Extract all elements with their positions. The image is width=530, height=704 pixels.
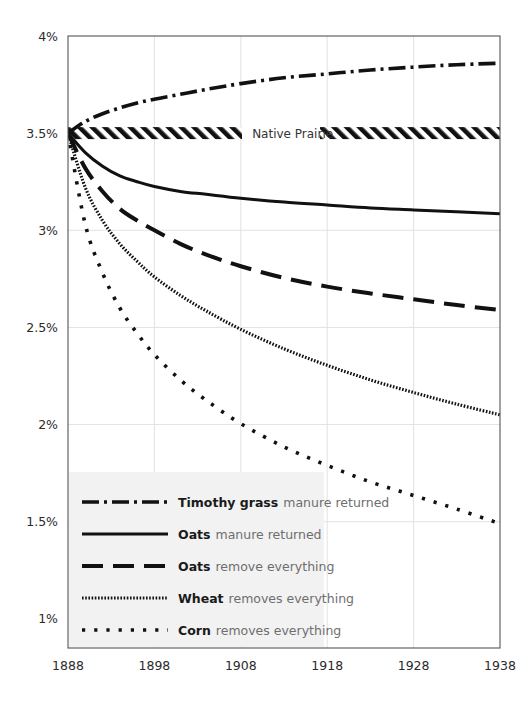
x-tick-label: 1888 — [52, 658, 84, 673]
legend-item-3[interactable]: Wheatremoves everything — [178, 591, 354, 606]
x-tick-label: 1898 — [138, 658, 170, 673]
y-tick-label: 2.5% — [26, 320, 58, 335]
y-tick-label: 2% — [38, 417, 58, 432]
y-tick-label: 1.5% — [26, 514, 58, 529]
legend-item-name: Oats — [178, 559, 210, 574]
x-axis-tick-labels: 188818981908191819281938 — [52, 658, 516, 673]
soil-nitrogen-line-chart: Timothy grassmanure returnedOatsmanure r… — [0, 0, 530, 704]
native-prairie-label: Native Prairie — [252, 127, 333, 141]
series-line-oats-remove-everything — [68, 133, 500, 310]
y-tick-label: 3.5% — [26, 126, 58, 141]
y-tick-label: 3% — [38, 223, 58, 238]
x-tick-label: 1928 — [398, 658, 430, 673]
x-tick-label: 1918 — [311, 658, 343, 673]
y-tick-label: 1% — [38, 611, 58, 626]
legend-item-descriptor: removes everything — [216, 623, 341, 638]
legend-item-descriptor: removes everything — [229, 591, 354, 606]
y-tick-label: 4% — [38, 29, 58, 44]
legend-item-name: Corn — [178, 623, 211, 638]
series-line-wheat-removes-everything — [68, 133, 500, 415]
legend-item-4[interactable]: Cornremoves everything — [178, 623, 341, 638]
legend-item-descriptor: manure returned — [283, 495, 389, 510]
legend-item-0[interactable]: Timothy grassmanure returned — [178, 495, 389, 510]
legend-item-descriptor: manure returned — [215, 527, 321, 542]
x-tick-label: 1938 — [484, 658, 516, 673]
y-axis-tick-labels: 4%3.5%3%2.5%2%1.5%1% — [26, 29, 58, 627]
series-line-oats-manure-returned — [68, 133, 500, 214]
legend-item-name: Timothy grass — [178, 495, 278, 510]
chart-container: Timothy grassmanure returnedOatsmanure r… — [0, 0, 530, 704]
legend-item-name: Wheat — [178, 591, 224, 606]
series-line-timothy-grass-manure-returned — [68, 63, 500, 133]
chart-annotations: Native Prairie — [252, 127, 333, 141]
x-tick-label: 1908 — [225, 658, 257, 673]
legend-item-name: Oats — [178, 527, 210, 542]
series-line-corn-removes-everything — [68, 133, 500, 524]
legend-item-descriptor: remove everything — [215, 559, 334, 574]
legend-panel: Timothy grassmanure returnedOatsmanure r… — [69, 472, 389, 647]
legend-item-2[interactable]: Oatsremove everything — [178, 559, 334, 574]
legend-item-1[interactable]: Oatsmanure returned — [178, 527, 322, 542]
